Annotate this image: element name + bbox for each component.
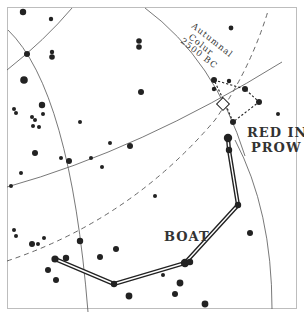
- star: [36, 242, 40, 246]
- star: [39, 102, 45, 108]
- star: [78, 120, 82, 124]
- star: [63, 255, 69, 261]
- star: [227, 79, 231, 83]
- star: [136, 38, 142, 44]
- star: [49, 17, 53, 21]
- star: [20, 9, 26, 15]
- star: [242, 86, 248, 92]
- star: [45, 267, 51, 273]
- star: [111, 281, 117, 287]
- star: [41, 112, 45, 116]
- star: [24, 51, 30, 57]
- star: [108, 141, 112, 145]
- star: [53, 277, 59, 283]
- star-chart: Autumnal Colur 2500 BC RED IN PROW BOAT: [0, 0, 304, 312]
- star: [9, 184, 13, 188]
- star: [172, 291, 178, 297]
- star: [19, 171, 23, 175]
- red-in-prow-label-line2: PROW: [251, 140, 302, 155]
- star: [97, 254, 103, 260]
- star: [126, 293, 133, 300]
- star: [256, 99, 262, 105]
- star: [51, 255, 58, 262]
- star: [66, 158, 72, 164]
- star: [42, 236, 46, 240]
- boat-label: BOAT: [164, 229, 210, 244]
- red-in-prow-label-line1: RED IN: [247, 125, 304, 140]
- star: [32, 150, 38, 156]
- star: [49, 54, 55, 60]
- star: [229, 26, 234, 31]
- star: [30, 115, 34, 119]
- star: [136, 44, 142, 50]
- star: [224, 134, 232, 142]
- star: [247, 230, 253, 236]
- star: [59, 156, 63, 160]
- star: [29, 241, 35, 247]
- star: [230, 119, 236, 125]
- star: [202, 301, 209, 308]
- star: [235, 202, 241, 208]
- star: [127, 143, 133, 149]
- star: [50, 50, 54, 54]
- star: [212, 87, 216, 91]
- star: [77, 238, 83, 244]
- star: [20, 76, 28, 84]
- star: [113, 246, 119, 252]
- star: [177, 280, 184, 287]
- star: [138, 89, 144, 95]
- star: [226, 147, 232, 153]
- star: [14, 111, 18, 115]
- star: [211, 77, 217, 83]
- star: [161, 273, 165, 277]
- star: [12, 107, 16, 111]
- star: [14, 234, 18, 238]
- star: [31, 124, 35, 128]
- star: [276, 112, 280, 116]
- star: [100, 165, 104, 169]
- star: [33, 118, 37, 122]
- star: [153, 194, 157, 198]
- star: [187, 259, 193, 265]
- star: [37, 125, 41, 129]
- star: [89, 156, 93, 160]
- star: [12, 228, 16, 232]
